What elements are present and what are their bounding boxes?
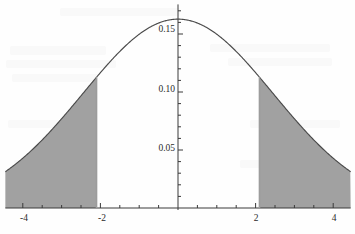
y-tick-label-0-10: 0.10 bbox=[158, 84, 175, 94]
shaded-tail-left-tail bbox=[5, 78, 96, 208]
x-tick-label-pos-2: 2 bbox=[254, 213, 259, 223]
x-tick-label-pos-4: 4 bbox=[332, 213, 337, 223]
x-tick-label-neg-4: -4 bbox=[20, 213, 28, 223]
y-tick-label-0-05: 0.05 bbox=[158, 143, 175, 153]
x-tick-label-neg-2: -2 bbox=[98, 213, 106, 223]
normal-distribution-plot: 0.15 0.10 0.05 -4 -2 2 4 bbox=[0, 0, 355, 234]
y-tick-label-0-15: 0.15 bbox=[158, 24, 175, 34]
chart-canvas: 0.15 0.10 0.05 -4 -2 2 4 bbox=[0, 0, 355, 234]
shaded-tail-right-tail bbox=[259, 77, 350, 208]
